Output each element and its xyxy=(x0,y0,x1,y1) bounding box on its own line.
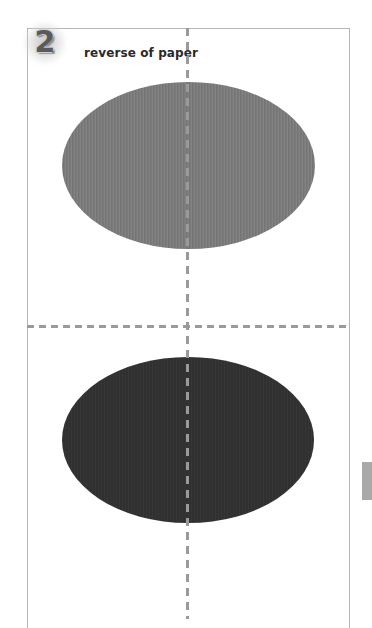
step-badge: 2 xyxy=(14,12,76,74)
horizontal-fold-line xyxy=(27,325,350,328)
side-tab xyxy=(362,462,372,500)
step-number: 2 xyxy=(14,26,76,58)
step-title: reverse of paper xyxy=(84,46,198,60)
vertical-fold-line xyxy=(186,28,189,619)
